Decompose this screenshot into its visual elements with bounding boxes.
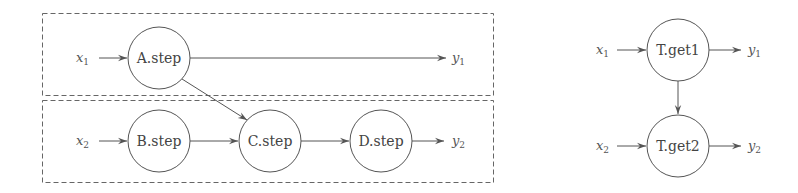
input-x1-label: x1 xyxy=(76,50,89,67)
node-T1-label: T.get1 xyxy=(656,42,700,58)
node-D: D.step xyxy=(350,110,412,172)
node-T1: T.get1 xyxy=(647,19,709,81)
group-box-1 xyxy=(43,14,494,96)
output-y1-label: y1 xyxy=(451,50,465,67)
node-D-label: D.step xyxy=(358,133,403,149)
node-C-label: C.step xyxy=(248,133,293,149)
node-A-label: A.step xyxy=(136,50,182,66)
output-y2-label: y2 xyxy=(451,133,465,150)
diagram-canvas: A.step B.step C.step D.step x1 x2 y1 y2 … xyxy=(0,0,798,193)
edge-A-C xyxy=(182,79,247,120)
node-B-label: B.step xyxy=(137,133,182,149)
node-A: A.step xyxy=(128,27,190,89)
right-output-y1-label: y1 xyxy=(747,42,761,59)
right-input-x1-label: x1 xyxy=(596,42,609,59)
right-output-y2-label: y2 xyxy=(747,138,761,155)
right-input-x2-label: x2 xyxy=(596,138,609,155)
node-T2: T.get2 xyxy=(647,115,709,177)
node-T2-label: T.get2 xyxy=(656,138,700,154)
node-C: C.step xyxy=(239,110,301,172)
input-x2-label: x2 xyxy=(76,133,89,150)
node-B: B.step xyxy=(128,110,190,172)
